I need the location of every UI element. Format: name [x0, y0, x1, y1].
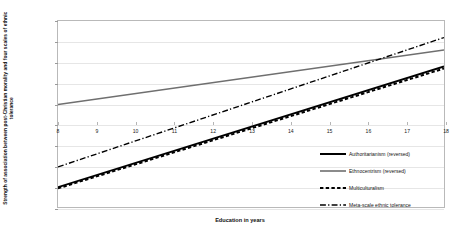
legend-swatch-icon: [320, 201, 346, 209]
y-tick-mark: [55, 209, 58, 210]
legend-swatch-icon: [320, 167, 346, 175]
legend-item[interactable]: Ethnocentrism (reversed): [320, 162, 460, 179]
legend-label: Authoritarianism (reversed): [349, 151, 410, 157]
legend-label: Meta-scale ethnic tolerance: [349, 202, 411, 208]
legend-label: Multiculturalism: [349, 185, 384, 191]
legend-item[interactable]: Meta-scale ethnic tolerance: [320, 196, 460, 213]
y-axis-title: Strength of association between post-Chr…: [3, 3, 15, 213]
plot-area: 0.250.20.150.10.050-0.05-0.1-0.15-0.2 89…: [57, 20, 445, 208]
x-axis-title: Education in years: [150, 217, 330, 223]
chart-figure: Strength of association between post-Chr…: [0, 0, 460, 243]
legend-swatch-icon: [320, 184, 346, 192]
legend-item[interactable]: Multiculturalism: [320, 179, 460, 196]
legend-item[interactable]: Authoritarianism (reversed): [320, 145, 460, 162]
legend-label: Ethnocentrism (reversed): [349, 168, 406, 174]
legend-swatch-icon: [320, 150, 346, 158]
x-tick-mark: [446, 122, 447, 125]
series-line: [58, 50, 444, 105]
chart-legend: Authoritarianism (reversed)Ethnocentrism…: [320, 145, 460, 213]
